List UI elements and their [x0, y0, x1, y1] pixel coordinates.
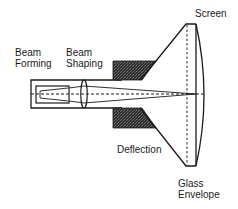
label-beam-shaping: Beam Shaping	[66, 47, 103, 69]
label-beam-shaping-line1: Beam	[66, 47, 103, 58]
label-deflection: Deflection	[117, 144, 161, 155]
label-glass-envelope: Glass Envelope	[178, 178, 220, 200]
label-beam-forming: Beam Forming	[15, 47, 52, 69]
label-glass-envelope-line2: Envelope	[178, 189, 220, 200]
screen-face	[187, 24, 204, 166]
deflection-yoke-bottom	[113, 108, 156, 128]
label-beam-forming-line1: Beam	[15, 47, 52, 58]
crt-diagram: Beam Forming Beam Shaping Screen Deflect…	[0, 0, 238, 209]
label-beam-forming-line2: Forming	[15, 58, 52, 69]
label-beam-shaping-line2: Shaping	[66, 58, 103, 69]
label-glass-envelope-line1: Glass	[178, 178, 220, 189]
label-screen: Screen	[195, 8, 227, 19]
deflection-yoke-top	[113, 61, 156, 80]
